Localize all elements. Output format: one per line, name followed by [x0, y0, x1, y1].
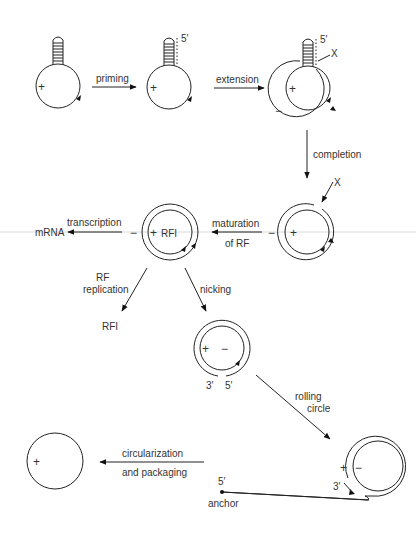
svg-text:5′: 5′ — [320, 34, 328, 45]
svg-text:circle: circle — [307, 403, 331, 414]
five-prime-label: 5′ — [181, 33, 189, 44]
svg-text:extension: extension — [216, 74, 259, 85]
step-label: priming — [96, 73, 129, 84]
step-priming: priming — [92, 73, 136, 87]
node-ss-hairpin: + — [36, 37, 81, 108]
svg-text:circularization: circularization — [122, 448, 183, 459]
svg-text:replication: replication — [83, 284, 129, 295]
svg-text:completion: completion — [313, 149, 361, 160]
step-circularization: circularization and packaging — [100, 448, 204, 478]
svg-text:−: − — [130, 226, 137, 240]
svg-text:5′: 5′ — [225, 380, 233, 391]
svg-text:−: − — [268, 226, 275, 240]
strand-label: + — [38, 80, 45, 94]
node-completed: X + − — [268, 177, 341, 260]
svg-text:+: + — [290, 226, 297, 240]
svg-text:nicking: nicking — [200, 284, 231, 295]
node-rolling-circle: + − 3′ 5′ anchor — [208, 436, 406, 509]
svg-text:5′: 5′ — [218, 476, 226, 487]
node-primed: + 5′ — [147, 33, 192, 109]
svg-text:RF: RF — [96, 272, 109, 283]
svg-text:and packaging: and packaging — [122, 467, 187, 478]
svg-text:3′: 3′ — [333, 481, 341, 492]
svg-text:−: − — [355, 461, 362, 475]
svg-text:rolling: rolling — [295, 391, 322, 402]
svg-text:+: + — [202, 342, 209, 356]
svg-text:+: + — [289, 82, 296, 96]
step-maturation: maturation of RF — [212, 218, 262, 249]
rfi-product-label: RFI — [102, 321, 118, 332]
svg-text:3′: 3′ — [206, 380, 214, 391]
x-pointer — [318, 55, 330, 61]
step-extension: extension — [214, 74, 264, 88]
svg-text:transcription: transcription — [67, 217, 121, 228]
svg-text:maturation: maturation — [212, 218, 259, 229]
node-nicked: + − 3′ 5′ — [194, 320, 250, 391]
svg-text:+: + — [150, 226, 157, 240]
node-extended: + − 5′ X — [268, 34, 338, 118]
step-transcription: transcription mRNA — [35, 217, 122, 238]
svg-text:X: X — [331, 48, 338, 59]
anchor-dot — [220, 490, 224, 494]
svg-text:−: − — [221, 342, 228, 356]
rfi-label: RFI — [161, 228, 177, 239]
svg-text:+: + — [33, 455, 40, 469]
svg-text:+: + — [340, 461, 347, 475]
svg-text:X: X — [334, 177, 341, 188]
svg-text:+: + — [150, 81, 157, 95]
svg-text:−: − — [275, 104, 282, 118]
step-rolling-circle: rolling circle — [256, 375, 331, 439]
hairpin-rungs — [53, 43, 63, 61]
step-nicking: nicking — [185, 268, 231, 311]
svg-text:of RF: of RF — [225, 238, 249, 249]
replication-cycle-diagram: + priming + 5′ extension — [0, 0, 416, 533]
step-rf-replication: RF replication RFI — [83, 268, 147, 332]
mrna-label: mRNA — [35, 227, 65, 238]
step-completion: completion — [307, 130, 361, 178]
anchor-label: anchor — [208, 498, 239, 509]
node-ss-circle: + — [27, 433, 83, 489]
